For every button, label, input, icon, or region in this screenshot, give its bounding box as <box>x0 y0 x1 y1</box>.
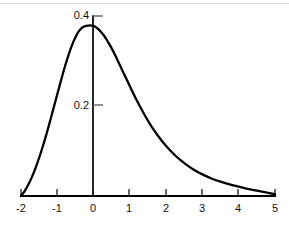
x-tick-label-2: 2 <box>163 202 169 214</box>
x-tick-label-3: 3 <box>199 202 205 214</box>
x-tick-label-5: 5 <box>272 202 278 214</box>
x-tick-label-4: 4 <box>235 202 241 214</box>
x-tick-label--2: -2 <box>16 202 26 214</box>
density-plot: -2 -1 0 1 2 3 4 5 0.2 0.4 <box>0 0 289 225</box>
x-tick-label-1: 1 <box>126 202 132 214</box>
density-curve-path <box>21 25 275 196</box>
y-tick-label-0.2: 0.2 <box>74 99 89 111</box>
chart-container: -2 -1 0 1 2 3 4 5 0.2 0.4 <box>0 0 289 225</box>
x-tick-label-0: 0 <box>90 202 96 214</box>
x-tick-label--1: -1 <box>52 202 62 214</box>
y-tick-label-0.4: 0.4 <box>74 9 89 21</box>
